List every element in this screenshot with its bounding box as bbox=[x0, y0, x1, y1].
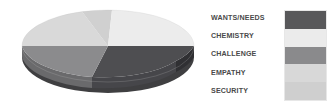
legend-item-challenge[interactable]: CHALLENGE bbox=[211, 46, 279, 64]
pie-chart-figure: WANTS/NEEDS CHEMISTRY CHALLENGE EMPATHY … bbox=[0, 0, 331, 110]
chart-legend: WANTS/NEEDS CHEMISTRY CHALLENGE EMPATHY … bbox=[211, 9, 329, 103]
legend-label-text: SECURITY bbox=[211, 88, 248, 95]
legend-label-column: WANTS/NEEDS CHEMISTRY CHALLENGE EMPATHY … bbox=[211, 9, 279, 101]
legend-item-security[interactable]: SECURITY bbox=[211, 83, 279, 101]
legend-swatch-chemistry bbox=[285, 29, 326, 47]
legend-item-empathy[interactable]: EMPATHY bbox=[211, 64, 279, 82]
legend-label-text: CHALLENGE bbox=[211, 51, 257, 58]
legend-swatch-security bbox=[285, 82, 326, 100]
legend-item-wants-needs[interactable]: WANTS/NEEDS bbox=[211, 9, 279, 27]
legend-swatch-column bbox=[284, 10, 327, 101]
legend-swatch-challenge bbox=[285, 47, 326, 65]
pie-chart-svg bbox=[0, 0, 206, 110]
pie-chart-plot-area bbox=[0, 0, 206, 110]
legend-label-text: EMPATHY bbox=[211, 70, 246, 77]
legend-item-chemistry[interactable]: CHEMISTRY bbox=[211, 27, 279, 45]
legend-swatch-wants-needs bbox=[285, 11, 326, 29]
legend-label-text: CHEMISTRY bbox=[211, 33, 254, 40]
pie-slice-chemistry bbox=[108, 10, 194, 46]
legend-swatch-empathy bbox=[285, 64, 326, 82]
legend-label-text: WANTS/NEEDS bbox=[211, 15, 265, 22]
